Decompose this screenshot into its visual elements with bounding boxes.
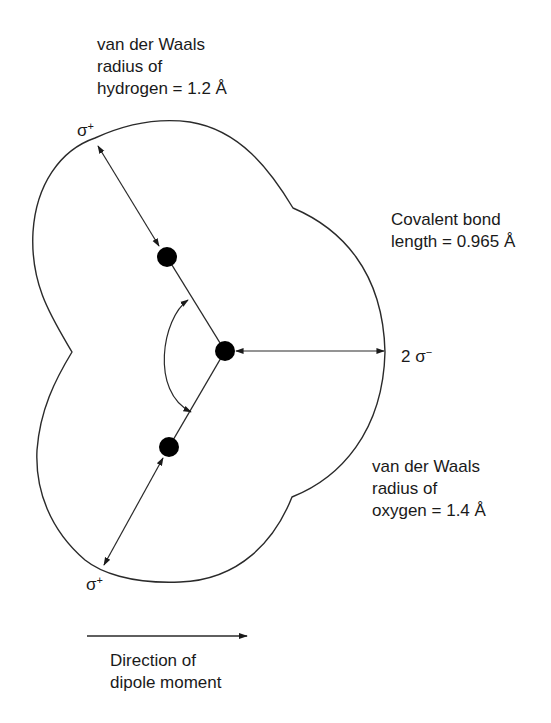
hydrogen-atom-upper: [157, 247, 177, 267]
dipole-line-2: dipole moment: [110, 672, 222, 694]
partial-charge-lower-hydrogen: σ+: [86, 570, 103, 595]
hydrogen-radius-arrow-upper: [98, 146, 159, 246]
oxygen-radius-line-2: radius of: [372, 478, 486, 500]
oxygen-radius-line-1: van der Waals: [372, 456, 486, 478]
bond-angle-arc: [164, 300, 191, 412]
bond-lower: [169, 351, 225, 447]
bond-upper: [167, 257, 225, 351]
hydrogen-radius-label: van der Waals radius of hydrogen = 1.2 Å: [97, 34, 227, 100]
dipole-label: Direction of dipole moment: [110, 650, 222, 694]
charge-coefficient: 2: [401, 347, 415, 366]
oxygen-atom: [215, 341, 235, 361]
dipole-line-1: Direction of: [110, 650, 222, 672]
oxygen-radius-label: van der Waals radius of oxygen = 1.4 Å: [372, 456, 486, 522]
oxygen-radius-line-3: oxygen = 1.4 Å: [372, 500, 486, 522]
hydrogen-radius-line-1: van der Waals: [97, 34, 227, 56]
bond-length-line-1: Covalent bond: [391, 209, 515, 231]
sigma-symbol: σ: [77, 121, 88, 140]
hydrogen-atom-lower: [159, 437, 179, 457]
charge-sign: −: [426, 346, 432, 358]
hydrogen-radius-line-2: radius of: [97, 56, 227, 78]
partial-charge-upper-hydrogen: σ+: [77, 116, 94, 141]
charge-sign: +: [97, 574, 103, 586]
sigma-symbol: σ: [86, 575, 97, 594]
charge-sign: +: [88, 120, 94, 132]
bond-length-label: Covalent bond length = 0.965 Å: [391, 209, 515, 253]
water-molecule-diagram: van der Waals radius of hydrogen = 1.2 Å…: [0, 0, 551, 723]
molecule-drawing: [0, 0, 551, 723]
sigma-symbol: σ: [415, 347, 426, 366]
hydrogen-radius-arrow-lower: [104, 458, 163, 565]
partial-charge-oxygen: 2 σ−: [401, 342, 432, 367]
hydrogen-radius-line-3: hydrogen = 1.2 Å: [97, 78, 227, 100]
bond-length-line-2: length = 0.965 Å: [391, 231, 515, 253]
